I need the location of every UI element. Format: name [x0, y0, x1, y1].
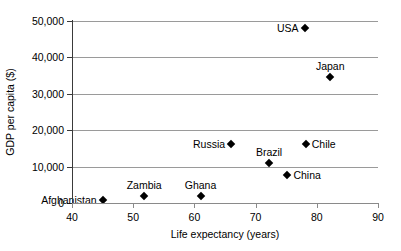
scatter-chart-figure: 010,00020,00030,00040,00050,000 40506070… [0, 0, 401, 251]
gridline [72, 21, 378, 22]
y-axis-tick-label: 20,000 [32, 124, 64, 136]
gridline [72, 94, 378, 95]
y-axis-title: GDP per capita ($) [4, 68, 16, 155]
data-point-marker[interactable] [300, 24, 308, 32]
plot-area: 010,00020,00030,00040,00050,000 40506070… [72, 21, 378, 203]
y-axis-line [72, 20, 73, 204]
data-point-marker[interactable] [283, 170, 291, 178]
gridline [72, 130, 378, 131]
y-axis-tick-label: 30,000 [32, 88, 64, 100]
x-axis-tick-label: 40 [66, 211, 78, 223]
data-point-label: Zambia [127, 179, 162, 191]
data-point-marker[interactable] [302, 140, 310, 148]
data-point-marker[interactable] [326, 73, 334, 81]
data-point-marker[interactable] [227, 140, 235, 148]
x-axis-tick-label: 90 [372, 211, 384, 223]
data-point-label: Afghanistan [41, 194, 96, 206]
data-point-label: Brazil [256, 146, 282, 158]
data-point-marker[interactable] [196, 192, 204, 200]
data-point-label: China [293, 169, 320, 181]
data-point-label: Ghana [185, 179, 217, 191]
x-axis-title: Life expectancy (years) [72, 228, 378, 240]
x-axis-tick-label: 70 [250, 211, 262, 223]
data-point-label: Chile [312, 138, 336, 150]
data-point-label: USA [277, 22, 299, 34]
data-point-label: Japan [316, 60, 345, 72]
x-axis-tick-label: 80 [311, 211, 323, 223]
gridline [72, 167, 378, 168]
data-point-marker[interactable] [140, 192, 148, 200]
y-axis-tick-label: 50,000 [32, 15, 64, 27]
x-axis-tick-label: 50 [127, 211, 139, 223]
x-axis-line [72, 203, 379, 204]
gridline [72, 57, 378, 58]
data-point-label: Russia [193, 138, 225, 150]
y-axis-tick-label: 10,000 [32, 161, 64, 173]
x-axis-tick-label: 60 [189, 211, 201, 223]
y-axis-tick-label: 40,000 [32, 51, 64, 63]
